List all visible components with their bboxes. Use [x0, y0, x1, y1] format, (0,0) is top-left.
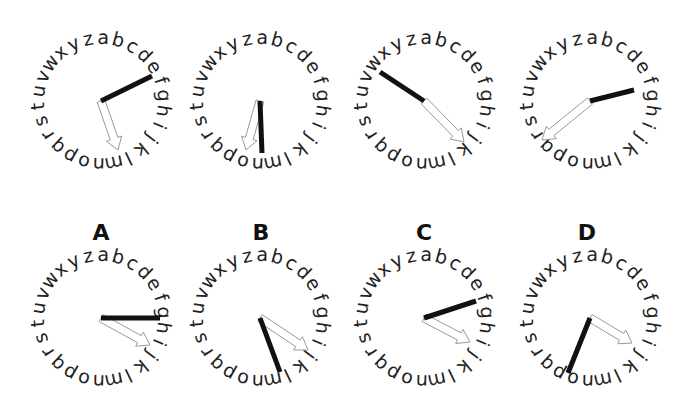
example-wheel-1: abcdefghijklmnopqrstuvwxyz [26, 26, 176, 176]
wheel-letter-k: k [453, 138, 476, 162]
wheel-letter-i: i [472, 119, 494, 132]
wheel-letter-t: t [185, 319, 208, 328]
clock-hand [590, 90, 634, 101]
wheel-letter-n: n [251, 154, 264, 176]
wheel-letter-a: a [97, 26, 109, 48]
wheel-letter-h: h [641, 320, 665, 335]
wheel-letter-t: t [185, 102, 208, 111]
wheel-letter-f: f [639, 74, 662, 89]
wheel-letter-a: a [97, 243, 109, 265]
wheel-letter-m: m [103, 151, 126, 176]
wheel-letter-k: k [619, 138, 642, 162]
option-label-c: C [416, 220, 432, 245]
wheel-letter-n: n [581, 371, 594, 393]
wheel-letter-k: k [130, 355, 153, 379]
option-wheel-c[interactable]: abcdefghijklmnopqrstuvwxyz [349, 243, 499, 393]
wheel-letter-f: f [150, 291, 173, 306]
wheel-letter-z: z [81, 244, 95, 268]
wheel-letter-t: t [26, 319, 49, 328]
wheel-letter-s: s [28, 113, 52, 129]
wheel-letter-n: n [415, 371, 428, 393]
option-wheel-b[interactable]: abcdefghijklmnopqrstuvwxyz [185, 243, 335, 393]
clock-hand [260, 101, 262, 153]
wheel-letter-a: a [586, 26, 598, 48]
wheel-letter-h: h [641, 103, 665, 118]
wheel-letter-m: m [426, 151, 449, 176]
wheel-letter-h: h [311, 320, 335, 335]
wheel-letter-i: i [308, 336, 330, 349]
wheel-letter-u: u [515, 83, 539, 98]
wheel-letter-t: t [515, 102, 538, 111]
wheel-letter-s: s [187, 330, 211, 346]
wheel-letter-n: n [92, 371, 105, 393]
wheel-letter-h: h [475, 103, 499, 118]
wheel-letter-g: g [642, 89, 665, 103]
wheel-letter-z: z [240, 244, 254, 268]
wheel-letter-h: h [152, 103, 176, 118]
example-wheel-2: abcdefghijklmnopqrstuvwxyz [185, 26, 335, 176]
wheel-letter-z: z [570, 244, 584, 268]
wheel-letter-g: g [153, 89, 176, 103]
wheel-letter-a: a [256, 243, 268, 265]
wheel-letter-n: n [92, 154, 105, 176]
wheel-letter-u: u [26, 83, 50, 98]
wheel-letter-u: u [26, 300, 50, 315]
wheel-letter-z: z [404, 244, 418, 268]
wheel-letter-m: m [262, 151, 285, 176]
wheel-letter-s: s [351, 330, 375, 346]
wheel-letter-i: i [638, 119, 660, 132]
wheel-letter-z: z [240, 27, 254, 51]
wheel-letter-k: k [619, 355, 642, 379]
wheel-letter-u: u [185, 83, 209, 98]
wheel-letter-t: t [349, 102, 372, 111]
wheel-letter-n: n [581, 154, 594, 176]
clock-hand [380, 72, 424, 101]
wheel-letter-z: z [570, 27, 584, 51]
wheel-letter-h: h [311, 103, 335, 118]
wheel-letter-a: a [420, 243, 432, 265]
outline-arrow-icon [97, 100, 121, 150]
wheel-letter-m: m [262, 368, 285, 393]
option-label-b: B [253, 220, 270, 245]
wheel-letter-g: g [476, 306, 499, 320]
wheel-letter-i: i [638, 336, 660, 349]
wheel-letter-a: a [256, 26, 268, 48]
wheel-letter-i: i [149, 119, 171, 132]
wheel-letter-t: t [349, 319, 372, 328]
wheel-letter-m: m [103, 368, 126, 393]
option-wheel-a[interactable]: abcdefghijklmnopqrstuvwxyz [26, 243, 176, 393]
wheel-letter-s: s [517, 330, 541, 346]
wheel-letter-u: u [515, 300, 539, 315]
wheel-letter-s: s [28, 330, 52, 346]
wheel-letter-s: s [351, 113, 375, 129]
wheel-letter-u: u [349, 300, 373, 315]
wheel-letter-m: m [426, 368, 449, 393]
option-wheel-d[interactable]: abcdefghijklmnopqrstuvwxyz [515, 243, 665, 393]
wheel-letter-z: z [81, 27, 95, 51]
wheel-letter-h: h [475, 320, 499, 335]
wheel-letter-h: h [152, 320, 176, 335]
outline-arrow-icon [588, 315, 632, 344]
clock-hand [424, 301, 476, 318]
wheel-letter-k: k [289, 138, 312, 162]
outline-arrow-icon [421, 98, 464, 142]
wheel-letter-f: f [309, 74, 332, 89]
wheel-letter-f: f [473, 74, 496, 89]
wheel-letter-i: i [149, 336, 171, 349]
wheel-letter-g: g [312, 89, 335, 103]
top-row: abcdefghijklmnopqrstuvwxyz abcdefghijklm… [26, 26, 665, 176]
wheel-letter-u: u [349, 83, 373, 98]
letter-wheel-figure: abcdefghijklmnopqrstuvwxyz abcdefghijklm… [0, 0, 684, 404]
wheel-letter-i: i [472, 336, 494, 349]
wheel-letter-s: s [517, 113, 541, 129]
wheel-letter-z: z [404, 27, 418, 51]
wheel-letter-i: i [308, 119, 330, 132]
option-label-d: D [578, 220, 596, 245]
wheel-letter-t: t [515, 319, 538, 328]
clock-hand [101, 76, 152, 101]
clock-hand [568, 318, 590, 373]
wheel-letter-t: t [26, 102, 49, 111]
wheel-letter-u: u [185, 300, 209, 315]
example-wheel-4: abcdefghijklmnopqrstuvwxyz [515, 26, 665, 176]
wheel-letter-g: g [476, 89, 499, 103]
